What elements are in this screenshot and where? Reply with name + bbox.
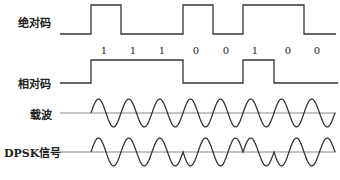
bit-label: 0 [223,45,229,56]
bit-label: 1 [101,45,107,56]
absolute-code-label: 绝对码 [18,14,51,30]
relative-code-waveform [60,60,338,83]
relative-code-label: 相对码 [18,75,51,91]
dpsk-diagram: 绝对码 相对码 载波 DPSK信号 1 1 1 0 0 1 0 0 [0,0,340,180]
bit-label: 0 [193,45,199,56]
bit-label: 0 [285,45,291,56]
bit-label: 1 [252,45,258,56]
dpsk-signal-label: DPSK信号 [4,144,61,160]
bit-label: 0 [314,45,320,56]
bit-label: 1 [159,45,165,56]
carrier-label: 载波 [30,106,52,122]
bit-label: 1 [130,45,136,56]
absolute-code-waveform [60,5,336,34]
